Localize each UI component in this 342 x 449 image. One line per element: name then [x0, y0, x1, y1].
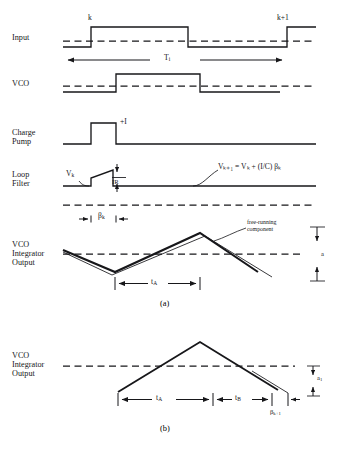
- period-label: Ti: [164, 54, 170, 63]
- equation-leader-line: [193, 170, 218, 186]
- ta-label-a: tA: [151, 278, 157, 287]
- free-running-leader-line: [214, 228, 246, 241]
- free-running-note-line1: free-running: [247, 219, 276, 226]
- ta-label-b-subscript: A: [158, 396, 162, 402]
- integrator-b-thin-trace: [252, 371, 288, 393]
- charge-pump-waveform: [63, 123, 316, 144]
- vco-waveform: [63, 74, 316, 92]
- vco-integrator-output-a: [63, 227, 325, 281]
- row-label-vco: VCO: [12, 80, 29, 89]
- beta-k-label: βk: [98, 212, 105, 221]
- edge-label-k-plus-1: k+1: [277, 14, 289, 22]
- dimensions-b: [118, 393, 300, 406]
- ta-label-b: tA: [156, 394, 162, 403]
- free-running-trace: [63, 236, 272, 277]
- tb-label-subscript: B: [237, 396, 241, 402]
- vk-leader-line: [79, 181, 89, 186]
- period-label-subscript: i: [169, 56, 171, 62]
- figure-container: Input VCO Charge Pump Loop Filter VCO In…: [0, 0, 342, 449]
- loop-filter-equation: Vₖ₊₁ = Vₖ + (I/C) βₖ: [218, 163, 281, 171]
- tb-label: tB: [235, 394, 241, 403]
- row-label-charge-pump-line2: Pump: [12, 138, 31, 147]
- row-label-input: Input: [12, 34, 29, 43]
- ir-label: IR: [112, 178, 119, 185]
- caption-b: (b): [160, 424, 170, 433]
- ta-dimension-a: [115, 277, 200, 290]
- waveform-canvas: [0, 0, 342, 449]
- amplitude-a1-label: a1: [317, 374, 322, 382]
- edge-label-k: k: [88, 14, 92, 22]
- beta-k-plus-1-label-subscript: k+1: [273, 411, 280, 416]
- row-label-loop-filter-line2: Filter: [12, 180, 30, 189]
- vk-label-subscript: k: [71, 172, 74, 178]
- caption-a: (a): [160, 299, 169, 308]
- vco-integrator-output-b: [63, 342, 320, 396]
- current-label-plus-i: +I: [120, 118, 127, 126]
- row-label-vco-integrator-b-line3: Output: [12, 370, 35, 379]
- ta-label-a-subscript: A: [153, 280, 157, 286]
- vk-label: Vk: [66, 170, 74, 179]
- amplitude-a-label: a: [321, 250, 324, 257]
- beta-k-plus-1-label: βk+1: [270, 408, 281, 416]
- amplitude-a1-label-subscript: 1: [320, 377, 322, 382]
- integrator-b-trace: [118, 342, 278, 392]
- beta-k-label-subscript: k: [102, 214, 105, 220]
- free-running-note-line2: component: [247, 226, 273, 233]
- input-waveform: [63, 27, 316, 47]
- row-label-vco-integrator-line3: Output: [12, 259, 35, 268]
